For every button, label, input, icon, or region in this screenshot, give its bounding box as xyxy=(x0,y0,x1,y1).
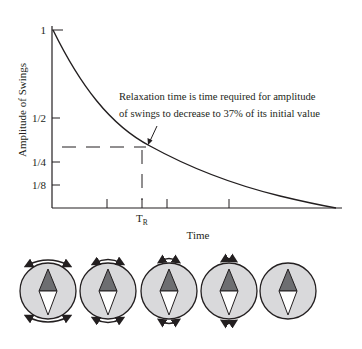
annotation-line-2: of swings to decrease to 37% of its init… xyxy=(119,108,320,119)
x-axis-label: Time xyxy=(187,229,210,241)
compass-4 xyxy=(201,259,257,324)
swing-arrow-bottom-icon xyxy=(224,322,234,324)
swing-arrow-top-icon xyxy=(161,259,177,262)
compass-2 xyxy=(80,260,136,323)
compass-3 xyxy=(141,259,197,324)
compass-5 xyxy=(260,263,316,319)
y-axis-label: Amplitude of Swings xyxy=(16,63,28,157)
decay-curve xyxy=(53,30,336,208)
relaxation-diagram: 1 1/2 1/4 1/8 Amplitude of Swings TR Tim… xyxy=(0,0,362,349)
swing-arrow-top-icon xyxy=(224,259,234,261)
tr-label: TR xyxy=(136,212,148,227)
y-tick-label-quarter: 1/4 xyxy=(32,156,47,168)
compass-1 xyxy=(20,260,76,322)
y-tick-label-half: 1/2 xyxy=(32,112,46,124)
y-tick-label-eighth: 1/8 xyxy=(32,179,47,191)
annotation-arrow xyxy=(150,126,157,141)
swing-arrow-bottom-icon xyxy=(161,321,177,324)
y-tick-label-1: 1 xyxy=(41,24,47,36)
annotation-line-1: Relaxation time is time required for amp… xyxy=(119,91,316,102)
arrowhead-icon xyxy=(148,138,153,145)
